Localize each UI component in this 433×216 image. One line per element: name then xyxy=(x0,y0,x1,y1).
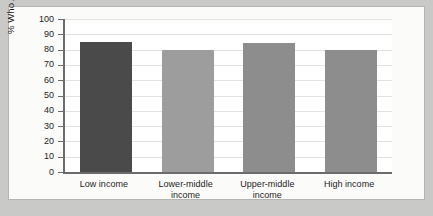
y-axis-tick-label: 100 xyxy=(8,15,54,24)
bar xyxy=(162,50,214,172)
bar xyxy=(243,43,295,172)
gridline xyxy=(65,19,392,20)
y-axis-tick-label: 30 xyxy=(8,122,54,131)
chart-figure: % Who Are Inactive 100908070605040302010… xyxy=(0,0,433,216)
y-axis-tick-label: 70 xyxy=(8,60,54,69)
x-axis-category-label: Upper-middle income xyxy=(227,179,309,201)
y-axis-tick-label: 20 xyxy=(8,137,54,146)
bar-chart: % Who Are Inactive 100908070605040302010… xyxy=(8,6,425,200)
y-axis-tick-label: 90 xyxy=(8,30,54,39)
bar xyxy=(325,50,377,172)
y-axis-tick-label: 50 xyxy=(8,91,54,100)
y-axis-tick-label: 40 xyxy=(8,106,54,115)
y-axis-tick-label: 10 xyxy=(8,152,54,161)
gridline xyxy=(65,34,392,35)
x-axis-category-label: Low income xyxy=(63,179,145,190)
x-axis-category-label: Lower-middle income xyxy=(145,179,227,201)
bar xyxy=(80,42,132,172)
y-axis-tick-label: 60 xyxy=(8,76,54,85)
y-axis-tick-label: 0 xyxy=(8,168,54,177)
plot-area xyxy=(63,19,392,174)
y-axis-tick-label: 80 xyxy=(8,45,54,54)
x-axis-category-label: High income xyxy=(308,179,390,190)
